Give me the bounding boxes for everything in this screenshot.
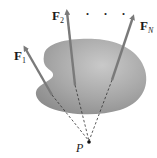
force-symbol: F: [140, 18, 148, 33]
force-subscript: 1: [22, 56, 26, 65]
force-label-n: FN: [140, 19, 153, 32]
force-label-2: F2: [52, 9, 64, 22]
force-diagram: F1 F2 FN . . . P: [0, 0, 157, 158]
force-symbol: F: [14, 48, 22, 63]
force-subscript: 2: [60, 16, 64, 25]
rigid-body: [36, 39, 146, 114]
force-label-1: F1: [14, 49, 26, 62]
force-symbol: F: [52, 8, 60, 23]
force-subscript: N: [148, 26, 153, 35]
ellipsis: . . .: [86, 5, 131, 17]
point-p-label: P: [76, 142, 83, 154]
point-p-dot: [87, 140, 91, 144]
diagram-graphics: [0, 0, 157, 158]
